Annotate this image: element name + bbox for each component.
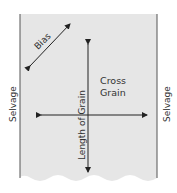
selvage-left-label: Selvage xyxy=(8,86,18,122)
length-of-grain-label: Length of Grain xyxy=(77,90,87,160)
cross-grain-label-line1: Cross xyxy=(100,75,126,86)
cross-grain-label-line2: Grain xyxy=(100,87,126,98)
fabric-grain-diagram: Bias Length of Grain Cross Grain Selvage… xyxy=(0,0,177,193)
selvage-right-label: Selvage xyxy=(162,86,172,122)
